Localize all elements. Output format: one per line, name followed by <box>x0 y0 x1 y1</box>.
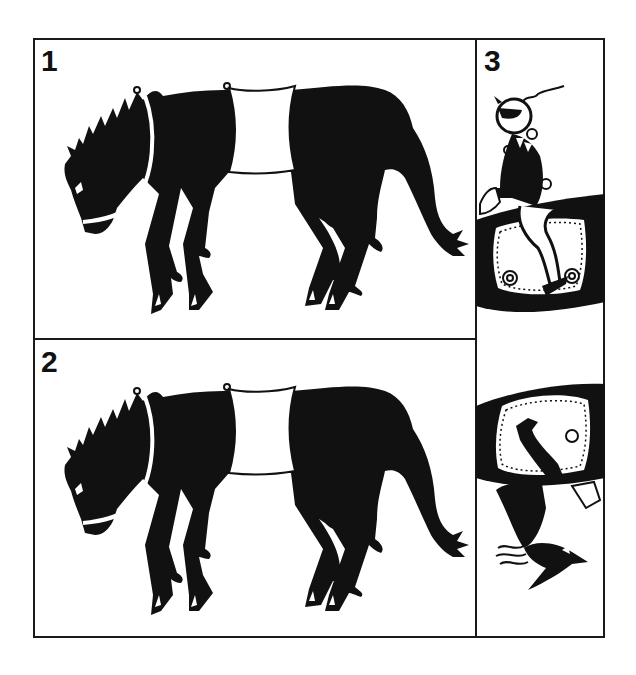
horse-illustration <box>33 339 477 641</box>
panel-2: 2 <box>33 339 477 638</box>
inverted-rider-figure <box>476 384 605 590</box>
panel-1: 1 <box>33 38 477 340</box>
panel-3: 3 <box>476 38 605 638</box>
figure: 1 2 3 <box>0 0 636 675</box>
horse-illustration <box>33 38 477 340</box>
rider-illustration <box>476 38 605 638</box>
seated-rider-figure <box>476 86 605 312</box>
